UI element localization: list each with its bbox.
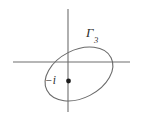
complex-plane-figure: Γ3 −i xyxy=(0,0,142,116)
minus-i-point-marker xyxy=(66,79,71,84)
contour-label: Γ3 xyxy=(86,26,98,42)
figure-canvas xyxy=(0,0,142,116)
minus-i-label: −i xyxy=(45,75,56,87)
contour-label-gamma: Γ xyxy=(86,25,93,40)
contour-label-subscript: 3 xyxy=(94,35,98,45)
